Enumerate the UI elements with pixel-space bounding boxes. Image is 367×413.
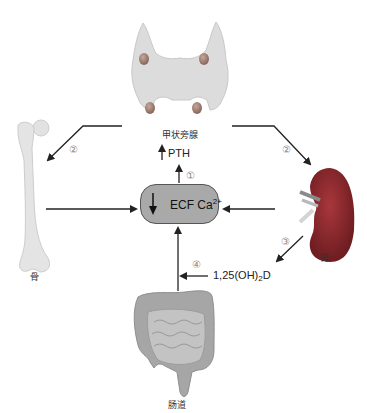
intestine-image: [134, 291, 214, 397]
parathyroid-nodule: [139, 53, 149, 65]
kidney-image: [300, 168, 354, 262]
arrow-parathyroid-to-bone: [48, 126, 122, 160]
parathyroid-nodule: [192, 102, 202, 114]
down-arrow-icon: [149, 193, 157, 215]
arrow-parathyroid-to-kidney: [232, 126, 310, 164]
calcium-charge: 2+: [213, 197, 222, 206]
parathyroid-gland-image: [132, 22, 228, 114]
step-2-right-marker: ②: [282, 144, 291, 155]
pth-label: PTH: [168, 147, 190, 159]
femur-bone-image: [18, 120, 50, 272]
step-1-marker: ①: [186, 170, 195, 181]
step-4-marker: ④: [192, 259, 201, 270]
vitamin-d-label: 1,25(OH)2D: [213, 269, 271, 283]
kidney-label: 肾: [320, 251, 329, 264]
bone-label: 骨: [30, 270, 39, 283]
vitd-suffix: D: [263, 269, 271, 281]
parathyroid-nodule: [145, 102, 155, 114]
intestine-label: 肠道: [168, 398, 186, 411]
parathyroid-label: 甲状旁腺: [162, 128, 198, 141]
vitd-prefix: 1,25(OH): [213, 269, 258, 281]
step-2-left-marker: ②: [69, 144, 78, 155]
ecf-calcium-text: ECF Ca: [170, 198, 213, 212]
step-3-marker: ③: [281, 236, 290, 247]
ecf-calcium-label: ECF Ca2+: [170, 197, 222, 212]
parathyroid-nodule: [199, 53, 209, 65]
